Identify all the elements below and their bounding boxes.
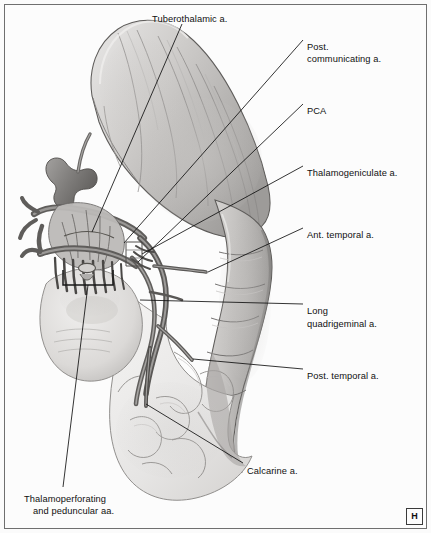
label-post-communicating-2: communicating a. [307, 54, 381, 65]
anatomical-illustration [0, 0, 431, 533]
label-thalamogeniculate: Thalamogeniculate a. [307, 168, 398, 179]
label-thalamoperforating-2: and peduncular aa. [33, 506, 114, 517]
label-long-quadrigeminal: Long [307, 306, 328, 317]
label-long-quadrigeminal-2: quadrigeminal a. [307, 319, 377, 330]
thalamus-body [91, 20, 270, 237]
label-post-communicating: Post. [307, 42, 329, 53]
panel-marker: H [406, 508, 423, 525]
label-calcarine: Calcarine a. [247, 466, 298, 477]
label-thalamoperforating: Thalamoperforating [24, 494, 106, 505]
anatomy-figure: Tuberothalamic a. Post. communicating a.… [0, 0, 431, 533]
label-tuberothalamic: Tuberothalamic a. [152, 14, 227, 25]
label-post-temporal: Post. temporal a. [307, 371, 379, 382]
label-pca: PCA [307, 106, 326, 117]
label-ant-temporal: Ant. temporal a. [307, 230, 374, 241]
